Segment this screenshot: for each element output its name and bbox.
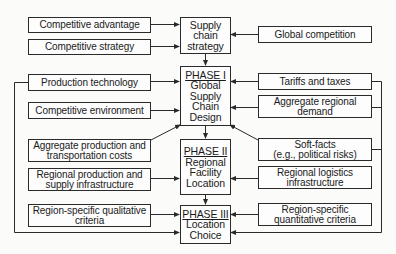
box-label: demand xyxy=(297,107,333,117)
phase-2-line: Location xyxy=(186,178,225,189)
production-technology-box: Production technology xyxy=(28,74,151,91)
regional-production-infrastructure-box: Regional production and supply infrastru… xyxy=(28,168,151,191)
regional-logistics-box: Regional logistics infrastructure xyxy=(258,166,372,189)
box-label: Regional production and xyxy=(36,170,142,180)
box-label: Competitive environment xyxy=(35,106,143,116)
competitive-strategy-box: Competitive strategy xyxy=(28,39,151,55)
strategy-line: strategy xyxy=(187,41,224,52)
phase-1-line: Design xyxy=(189,112,221,123)
box-label: Soft-facts xyxy=(294,140,335,150)
box-label: Production technology xyxy=(41,78,138,88)
box-label: Region-specific qualitative xyxy=(33,206,146,216)
supply-chain-strategy-box: Supply chain strategy xyxy=(180,17,231,54)
box-label: criteria xyxy=(75,216,104,226)
tariffs-taxes-box: Tariffs and taxes xyxy=(258,73,372,90)
phase-2-line: Facility xyxy=(190,167,222,178)
competitive-environment-box: Competitive environment xyxy=(28,102,151,119)
phase-2-header: PHASE II xyxy=(184,146,228,157)
box-label: Global competition xyxy=(274,30,355,40)
box-label: Competitive advantage xyxy=(39,20,139,30)
global-competition-box: Global competition xyxy=(258,26,372,43)
aggregate-production-costs-box: Aggregate production and transportation … xyxy=(28,139,151,162)
region-specific-quantitative-box: Region-specific quantitative criteria xyxy=(258,203,372,226)
phase-1-box: PHASE I Global Supply Chain Design xyxy=(180,66,231,126)
box-label: Aggregate regional xyxy=(274,97,357,107)
aggregate-regional-demand-box: Aggregate regional demand xyxy=(258,95,372,118)
box-label: quantitative criteria xyxy=(274,215,356,225)
box-label: Region-specific xyxy=(282,205,349,215)
region-specific-qualitative-box: Region-specific qualitative criteria xyxy=(28,204,151,227)
box-label: Regional logistics xyxy=(277,168,353,178)
phase-3-line: Choice xyxy=(189,230,221,241)
phase-3-box: PHASE III Location Choice xyxy=(180,205,231,244)
box-label: transportation costs xyxy=(47,151,132,161)
phase-2-box: PHASE II Regional Facility Location xyxy=(180,139,231,195)
box-label: Aggregate production and xyxy=(33,141,146,151)
box-label: Tariffs and taxes xyxy=(280,77,351,87)
box-label: infrastructure xyxy=(287,178,344,188)
box-label: Competitive strategy xyxy=(45,42,134,52)
soft-facts-box: Soft-facts (e.g., political risks) xyxy=(258,138,372,161)
box-label: (e.g., political risks) xyxy=(273,150,356,160)
competitive-advantage-box: Competitive advantage xyxy=(28,17,151,33)
box-label: supply infrastructure xyxy=(46,180,134,190)
